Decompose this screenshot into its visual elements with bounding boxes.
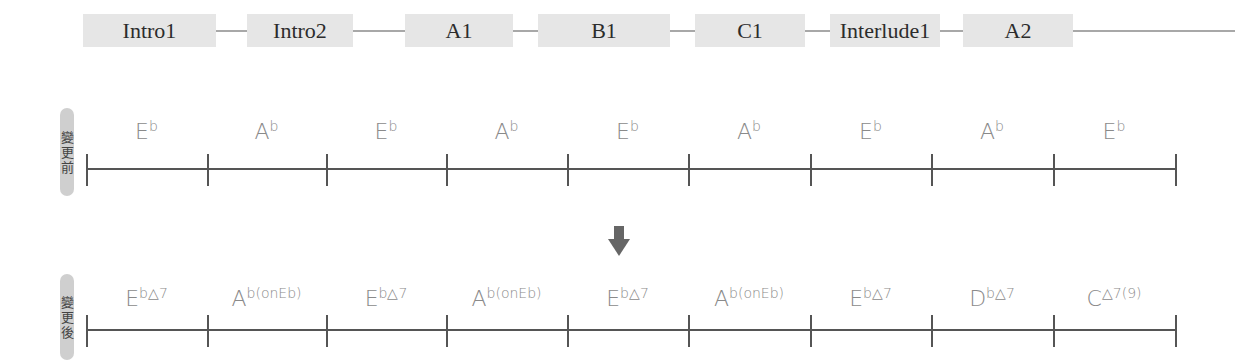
- chord-label: Eb: [1103, 118, 1126, 144]
- bar-tick: [326, 315, 328, 347]
- connector: [670, 30, 695, 32]
- chord-root: C: [1086, 286, 1101, 311]
- timeline-after: [86, 329, 1176, 331]
- chord-label: Ab(onEb): [231, 285, 301, 311]
- label-char: 變: [61, 130, 74, 145]
- chord-root: E: [606, 286, 620, 311]
- chord-label: Ab: [495, 118, 519, 144]
- chord-label: Ab(onEb): [714, 285, 784, 311]
- chord-label: C△7(9): [1086, 285, 1141, 311]
- bar-tick: [86, 315, 88, 347]
- chord-label: Eb△7: [365, 285, 408, 311]
- bar-tick: [810, 315, 812, 347]
- chord-root: E: [135, 119, 149, 144]
- chord-quality: b: [995, 118, 1004, 134]
- bar-tick: [688, 315, 690, 347]
- row-label-after: 變 更 後: [60, 274, 74, 360]
- row-label-before: 變 更 前: [60, 108, 74, 196]
- chord-quality: b△7: [986, 285, 1015, 301]
- bar-tick: [207, 154, 209, 186]
- connector: [805, 30, 830, 32]
- chord-label: Eb△7: [849, 285, 892, 311]
- chord-root: A: [980, 119, 995, 144]
- chord-quality: b: [389, 118, 398, 134]
- chord-label: Eb: [859, 118, 882, 144]
- bar-tick: [326, 154, 328, 186]
- chord-root: A: [255, 119, 270, 144]
- chord-root: E: [125, 286, 139, 311]
- bar-tick: [1175, 154, 1177, 186]
- chord-root: D: [969, 286, 986, 311]
- connector: [216, 30, 247, 32]
- chord-quality: b: [270, 118, 279, 134]
- connector: [940, 30, 963, 32]
- label-char: 變: [61, 295, 74, 310]
- chord-quality: △7(9): [1102, 285, 1142, 301]
- bar-tick: [688, 154, 690, 186]
- bar-tick: [446, 315, 448, 347]
- chord-root: E: [616, 119, 630, 144]
- section-a2: A2: [963, 14, 1073, 47]
- bar-tick: [1053, 315, 1055, 347]
- chord-label: Ab: [980, 118, 1004, 144]
- timeline-before: [86, 168, 1176, 170]
- section-interlude1: Interlude1: [830, 14, 940, 47]
- label-char: 後: [61, 325, 74, 340]
- bar-tick: [931, 154, 933, 186]
- connector: [353, 30, 405, 32]
- chord-label: Eb: [135, 118, 158, 144]
- bar-tick: [1053, 154, 1055, 186]
- bar-tick: [86, 154, 88, 186]
- chord-label: Eb△7: [125, 285, 168, 311]
- chord-root: E: [859, 119, 873, 144]
- section-a1: A1: [405, 14, 513, 47]
- chord-root: E: [365, 286, 379, 311]
- bar-tick: [931, 315, 933, 347]
- chord-root: A: [495, 119, 510, 144]
- chord-label: Eb: [375, 118, 398, 144]
- chord-root: A: [471, 286, 486, 311]
- chord-quality: b△7: [139, 285, 168, 301]
- chord-root: E: [1103, 119, 1117, 144]
- chord-quality: b△7: [863, 285, 892, 301]
- section-label: A2: [1005, 18, 1032, 44]
- chord-label: Eb△7: [606, 285, 649, 311]
- connector: [513, 30, 538, 32]
- chord-quality: b(onEb): [487, 285, 542, 301]
- chord-quality: b: [1117, 118, 1126, 134]
- label-char: 更: [61, 145, 74, 160]
- chord-quality: b: [149, 118, 158, 134]
- chord-quality: b: [630, 118, 639, 134]
- bar-tick: [1175, 315, 1177, 347]
- chord-quality: b: [510, 118, 519, 134]
- chord-quality: b: [752, 118, 761, 134]
- section-intro1: Intro1: [83, 14, 216, 47]
- chord-label: Db△7: [969, 285, 1015, 311]
- chord-quality: b△7: [620, 285, 649, 301]
- chord-quality: b: [873, 118, 882, 134]
- chord-quality: b(onEb): [247, 285, 302, 301]
- section-b1: B1: [538, 14, 670, 47]
- chord-root: A: [714, 286, 729, 311]
- chord-quality: b△7: [379, 285, 408, 301]
- section-label: B1: [591, 18, 617, 44]
- chord-root: A: [231, 286, 246, 311]
- section-label: Intro2: [273, 18, 327, 44]
- section-label: Interlude1: [840, 18, 930, 44]
- chord-label: Ab: [255, 118, 279, 144]
- chord-label: Eb: [616, 118, 639, 144]
- label-char: 更: [61, 310, 74, 325]
- chord-root: E: [375, 119, 389, 144]
- section-intro2: Intro2: [247, 14, 353, 47]
- section-c1: C1: [695, 14, 805, 47]
- down-arrow-icon: [608, 226, 630, 256]
- section-label: A1: [446, 18, 473, 44]
- bar-tick: [567, 154, 569, 186]
- chord-label: Ab(onEb): [471, 285, 541, 311]
- label-char: 前: [61, 160, 74, 175]
- section-label: C1: [737, 18, 763, 44]
- chord-root: E: [849, 286, 863, 311]
- bar-tick: [207, 315, 209, 347]
- bar-tick: [446, 154, 448, 186]
- chord-label: Ab: [737, 118, 761, 144]
